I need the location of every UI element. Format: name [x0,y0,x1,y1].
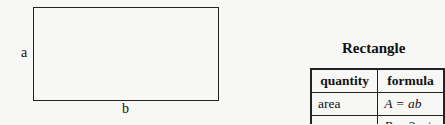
rectangle-shape [33,7,219,101]
header-formula: formula [378,69,444,93]
table-header-row: quantity formula [311,69,444,93]
table-title: Rectangle [342,40,405,57]
quantity-cell: perimeter [311,116,378,125]
formula-cell: A = ab [378,93,444,116]
table-row: perimeter P = 2a + 2b [311,116,444,125]
side-b-label: b [122,101,129,117]
side-a-label: a [21,45,27,61]
header-quantity: quantity [311,69,378,93]
formula-table: quantity formula area A = ab perimeter P… [310,68,445,124]
quantity-cell: area [311,93,378,116]
table-row: area A = ab [311,93,444,116]
formula-cell: P = 2a + 2b [378,116,444,125]
